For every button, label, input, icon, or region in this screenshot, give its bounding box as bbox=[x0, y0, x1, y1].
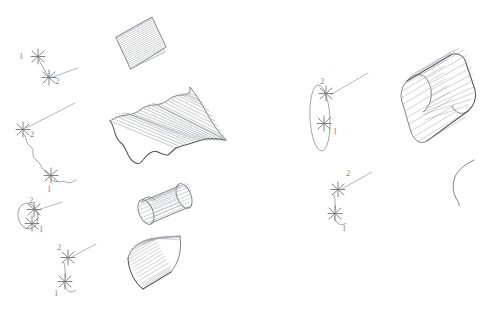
directrix-guide-d bbox=[70, 244, 96, 258]
directrix-tall-ellipse-e bbox=[308, 85, 331, 152]
point-marker-1-d bbox=[58, 274, 72, 289]
directrix-curve-1-a bbox=[38, 56, 49, 78]
marker-label-1-b: 1 bbox=[47, 184, 51, 194]
bottom-right-edge-b bbox=[176, 138, 226, 148]
ruling-lines-b bbox=[110, 93, 226, 148]
marker-label-2-f: 2 bbox=[346, 168, 350, 178]
marker-label-1-a: 1 bbox=[19, 51, 23, 61]
marker-label-1-c: 1 bbox=[39, 224, 43, 234]
point-marker-1-b bbox=[44, 168, 58, 183]
point-marker-1-a bbox=[31, 49, 45, 64]
sketch-ellipse-and-line: 2 1 bbox=[16, 195, 62, 234]
directrix-guide-e bbox=[330, 73, 368, 95]
sketch-s-curve-and-line: 2 1 bbox=[328, 168, 372, 233]
surface-planar-ruled-patch bbox=[116, 17, 166, 69]
point-marker-1-f bbox=[328, 206, 342, 221]
s-curve-path-f bbox=[453, 160, 474, 206]
free-s-curve bbox=[453, 160, 474, 206]
directrix-guide-b bbox=[26, 103, 75, 128]
marker-label-1-e: 1 bbox=[333, 126, 337, 136]
marker-label-2-e: 2 bbox=[320, 76, 324, 86]
surface-corrugated-ruled-sheet bbox=[110, 87, 226, 163]
point-marker-2-f bbox=[331, 182, 345, 197]
marker-label-2-d: 2 bbox=[57, 242, 61, 252]
drawing-canvas: 1 2 bbox=[0, 0, 489, 309]
surface-rounded-rectangle-extrusion bbox=[401, 48, 476, 143]
directrix-curve-1-b bbox=[52, 180, 76, 183]
sketch-two-straight-segments: 1 2 bbox=[19, 49, 78, 86]
marker-label-1-d: 1 bbox=[54, 288, 58, 298]
ruled-surface-illustration: 1 2 bbox=[0, 0, 489, 309]
marker-label-2-a: 2 bbox=[55, 76, 59, 86]
directrix-guide-f bbox=[340, 172, 372, 190]
directrix-arc-1-d bbox=[64, 284, 76, 292]
directrix-ellipse-c bbox=[16, 201, 41, 231]
point-marker-1-e bbox=[317, 116, 331, 131]
sketch-tall-ellipse-and-line: 2 1 bbox=[308, 73, 368, 151]
sketch-two-wavy-curves: 2 1 bbox=[16, 103, 76, 194]
point-marker-2-e bbox=[319, 86, 333, 101]
point-marker-2-a bbox=[42, 70, 56, 85]
directrix-curve-2-b bbox=[22, 133, 52, 180]
marker-label-1-f: 1 bbox=[342, 223, 346, 233]
point-marker-2-b bbox=[16, 122, 30, 137]
surface-curved-shell-ruled-sheet bbox=[128, 236, 181, 289]
surface-cylinder-ruled-tube bbox=[135, 181, 196, 226]
point-marker-2-d bbox=[61, 250, 75, 265]
sketch-arc-and-line: 2 1 bbox=[54, 242, 96, 298]
marker-label-2-b: 2 bbox=[30, 129, 34, 139]
marker-label-2-c: 2 bbox=[29, 195, 33, 205]
